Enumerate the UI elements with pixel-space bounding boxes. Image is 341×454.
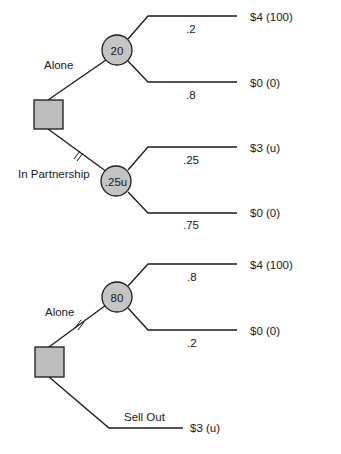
chance-node-value: .25u xyxy=(105,176,127,188)
decision-node xyxy=(35,347,64,377)
probability-label: .75 xyxy=(183,219,199,231)
probability-label: .25 xyxy=(183,154,199,166)
decision-node xyxy=(34,100,63,129)
payoff-label: $0 (0) xyxy=(250,325,280,337)
probability-label: .2 xyxy=(186,23,196,35)
chance-node: 80 xyxy=(102,282,132,312)
branch-label: Alone xyxy=(45,306,74,318)
payoff-label: $0 (0) xyxy=(250,77,280,89)
outcome-edge xyxy=(128,61,237,82)
outcome-edge xyxy=(128,264,237,286)
outcome-edge xyxy=(128,308,237,330)
probability-label: .2 xyxy=(187,337,197,349)
branch-label: Alone xyxy=(44,59,73,71)
chance-node-value: 80 xyxy=(111,292,124,304)
payoff-label: $3 (u) xyxy=(190,422,220,434)
outcome-edge xyxy=(128,16,237,39)
tree-1: 20 .25u Alone In Partnership .2 .8 .25 .… xyxy=(18,11,293,231)
probability-label: .8 xyxy=(186,89,196,101)
chance-node: .25u xyxy=(101,166,131,196)
payoff-label: $3 (u) xyxy=(250,142,280,154)
blocked-branch-marker xyxy=(74,151,83,161)
branch-label: In Partnership xyxy=(18,168,90,180)
branch-partnership-edge xyxy=(48,129,107,172)
tree-2: 80 Alone Sell Out .8 .2 $4 (100) $0 (0) … xyxy=(35,259,293,434)
chance-node: 20 xyxy=(102,35,132,65)
payoff-label: $4 (100) xyxy=(250,11,293,23)
outcome-edge xyxy=(128,192,237,213)
probability-label: .8 xyxy=(187,271,197,283)
branch-label: Sell Out xyxy=(124,411,166,423)
chance-node-value: 20 xyxy=(111,45,124,57)
payoff-label: $4 (100) xyxy=(250,259,293,271)
payoff-label: $0 (0) xyxy=(250,207,280,219)
decision-tree-diagram: 20 .25u Alone In Partnership .2 .8 .25 .… xyxy=(0,0,341,454)
